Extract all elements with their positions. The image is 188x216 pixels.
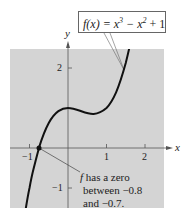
x-axis-label: x	[175, 142, 180, 153]
function-label: f(x) = x3 − x2 + 1	[83, 16, 165, 32]
x-tick-label-1: 1	[104, 152, 109, 162]
y-tick-label-2: 2	[57, 63, 62, 73]
annotation-line-1: has a zero	[83, 171, 130, 183]
y-tick-label-neg1: −1	[52, 183, 63, 193]
x-axis-arrow-icon	[166, 146, 173, 150]
function-part: (x) = x	[86, 17, 119, 31]
function-part: − x	[123, 17, 142, 31]
annotation-line-3: and −0.7.	[80, 197, 142, 210]
annotation-line-2: between −0.8	[80, 184, 142, 197]
function-label-box: f(x) = x3 − x2 + 1	[78, 11, 166, 33]
zero-point-marker	[37, 146, 42, 151]
x-tick-label-2: 2	[142, 152, 147, 162]
y-axis-label: y	[65, 28, 70, 39]
zero-annotation: f has a zero between −0.8 and −0.7.	[80, 171, 142, 210]
x-tick-label-neg1: −1	[22, 152, 33, 162]
function-part: + 1	[147, 17, 166, 31]
y-axis-arrow-icon	[66, 41, 70, 48]
